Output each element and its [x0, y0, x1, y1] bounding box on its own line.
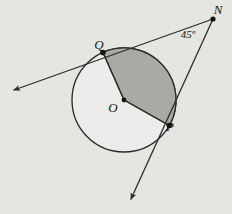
angle-label-45-degrees: 45º: [181, 28, 196, 40]
figure-canvas: O Q P N 45º: [0, 0, 232, 214]
point-label-P: P: [165, 119, 174, 134]
point-dot-O: [122, 98, 127, 103]
point-label-O: O: [108, 100, 118, 115]
geometry-figure: a partir de la figuraobtener el valor de…: [0, 0, 232, 214]
point-label-Q: Q: [94, 37, 104, 52]
point-dot-N: [210, 16, 215, 21]
point-label-N: N: [213, 2, 224, 17]
